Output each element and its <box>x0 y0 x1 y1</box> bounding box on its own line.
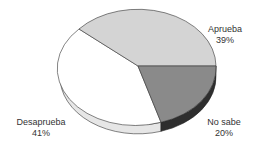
label-nosabe-name: No sabe <box>202 117 246 128</box>
label-desaprueba: Desaprueba 41% <box>14 117 68 139</box>
label-aprueba-name: Aprueba <box>203 24 247 35</box>
label-aprueba: Aprueba 39% <box>203 24 247 46</box>
pie-top <box>57 9 216 125</box>
label-aprueba-pct: 39% <box>203 35 247 46</box>
label-nosabe: No sabe 20% <box>202 117 246 139</box>
label-nosabe-pct: 20% <box>202 128 246 139</box>
label-desaprueba-pct: 41% <box>14 128 68 139</box>
label-desaprueba-name: Desaprueba <box>14 117 68 128</box>
